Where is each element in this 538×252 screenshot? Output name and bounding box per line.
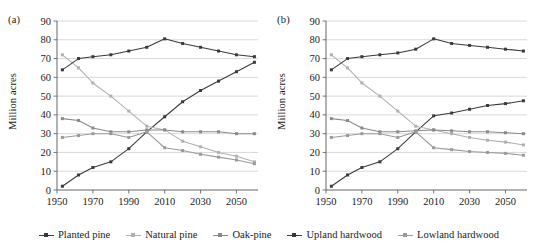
data-point-marker bbox=[360, 55, 363, 58]
legend-marker-icon bbox=[39, 231, 54, 240]
data-point-marker bbox=[109, 53, 112, 56]
chart-panel-b: (b) Million acres 0102030405060708090195… bbox=[269, 0, 538, 220]
data-point-marker bbox=[235, 155, 238, 158]
data-point-marker bbox=[77, 173, 80, 176]
chart-panel-a: (a) Million acres 0102030405060708090195… bbox=[0, 0, 269, 220]
data-point-marker bbox=[145, 46, 148, 49]
data-series-line bbox=[62, 119, 254, 134]
data-point-marker bbox=[77, 119, 80, 122]
data-point-marker bbox=[163, 37, 166, 40]
data-point-marker bbox=[468, 44, 471, 47]
data-point-marker bbox=[468, 130, 471, 133]
y-tick-label: 10 bbox=[310, 166, 321, 177]
data-series-line bbox=[331, 39, 523, 70]
x-tick-label: 1970 bbox=[351, 196, 372, 207]
y-tick-label: 90 bbox=[41, 16, 52, 27]
y-tick-label: 70 bbox=[41, 53, 52, 64]
y-tick-label: 20 bbox=[41, 147, 52, 158]
data-point-marker bbox=[414, 130, 417, 133]
data-point-marker bbox=[414, 125, 417, 128]
data-point-marker bbox=[414, 48, 417, 51]
data-point-marker bbox=[468, 108, 471, 111]
data-point-marker bbox=[504, 131, 507, 134]
y-tick-label: 60 bbox=[41, 72, 52, 83]
data-point-marker bbox=[253, 55, 256, 58]
legend-marker-icon bbox=[213, 231, 228, 240]
data-point-marker bbox=[181, 149, 184, 152]
data-point-marker bbox=[61, 53, 64, 56]
data-point-marker bbox=[378, 95, 381, 98]
y-tick-label: 70 bbox=[310, 53, 321, 64]
data-point-marker bbox=[61, 185, 64, 188]
data-point-marker bbox=[235, 70, 238, 73]
data-point-marker bbox=[217, 80, 220, 83]
data-point-marker bbox=[450, 132, 453, 135]
data-point-marker bbox=[486, 139, 489, 142]
y-tick-label: 20 bbox=[310, 147, 321, 158]
data-point-marker bbox=[127, 147, 130, 150]
data-series-line bbox=[331, 55, 523, 145]
data-point-marker bbox=[432, 114, 435, 117]
data-point-marker bbox=[504, 152, 507, 155]
data-series-line bbox=[62, 132, 254, 164]
x-tick-label: 2050 bbox=[226, 196, 247, 207]
x-tick-label: 1990 bbox=[387, 196, 408, 207]
y-tick-label: 30 bbox=[41, 128, 52, 139]
legend-item[interactable]: Planted pine bbox=[39, 230, 110, 241]
data-point-marker bbox=[61, 136, 64, 139]
data-point-marker bbox=[181, 100, 184, 103]
x-tick-label: 2010 bbox=[154, 196, 175, 207]
data-point-marker bbox=[522, 154, 525, 157]
y-tick-label: 50 bbox=[310, 91, 321, 102]
data-point-marker bbox=[91, 166, 94, 169]
data-point-marker bbox=[396, 130, 399, 133]
data-point-marker bbox=[181, 42, 184, 45]
data-point-marker bbox=[330, 136, 333, 139]
y-tick-label: 80 bbox=[310, 34, 321, 45]
data-point-marker bbox=[127, 110, 130, 113]
data-point-marker bbox=[486, 151, 489, 154]
legend-label: Oak-pine bbox=[232, 230, 271, 241]
data-point-marker bbox=[522, 99, 525, 102]
data-point-marker bbox=[217, 130, 220, 133]
legend-item[interactable]: Upland hardwood bbox=[287, 230, 382, 241]
data-point-marker bbox=[330, 117, 333, 120]
data-point-marker bbox=[396, 51, 399, 54]
x-tick-label: 2030 bbox=[190, 196, 211, 207]
data-point-marker bbox=[504, 141, 507, 144]
y-tick-label: 60 bbox=[310, 72, 321, 83]
y-tick-label: 40 bbox=[41, 109, 52, 120]
data-point-marker bbox=[199, 153, 202, 156]
data-series-line bbox=[331, 132, 523, 155]
legend-item[interactable]: Lowland hardwood bbox=[398, 230, 499, 241]
data-point-marker bbox=[522, 143, 525, 146]
data-point-marker bbox=[217, 156, 220, 159]
data-point-marker bbox=[163, 146, 166, 149]
data-point-marker bbox=[253, 132, 256, 135]
data-point-marker bbox=[91, 132, 94, 135]
y-tick-label: 90 bbox=[310, 16, 321, 27]
data-point-marker bbox=[127, 136, 130, 139]
data-point-marker bbox=[217, 50, 220, 53]
data-point-marker bbox=[330, 68, 333, 71]
x-tick-label: 2010 bbox=[423, 196, 444, 207]
y-tick-label: 10 bbox=[41, 166, 52, 177]
data-point-marker bbox=[396, 147, 399, 150]
legend-label: Upland hardwood bbox=[306, 230, 382, 241]
data-point-marker bbox=[235, 53, 238, 56]
data-point-marker bbox=[91, 55, 94, 58]
data-point-marker bbox=[109, 160, 112, 163]
legend-item[interactable]: Oak-pine bbox=[213, 230, 271, 241]
data-point-marker bbox=[145, 125, 148, 128]
data-point-marker bbox=[360, 81, 363, 84]
data-point-marker bbox=[77, 134, 80, 137]
data-point-marker bbox=[77, 57, 80, 60]
data-point-marker bbox=[360, 127, 363, 130]
y-tick-label: 80 bbox=[41, 34, 52, 45]
legend-item[interactable]: Natural pine bbox=[126, 230, 197, 241]
data-point-marker bbox=[181, 130, 184, 133]
data-point-marker bbox=[450, 42, 453, 45]
data-point-marker bbox=[346, 66, 349, 69]
x-tick-label: 1950 bbox=[316, 196, 337, 207]
plot-area-b: 0102030405060708090195019701990201020302… bbox=[269, 0, 538, 220]
